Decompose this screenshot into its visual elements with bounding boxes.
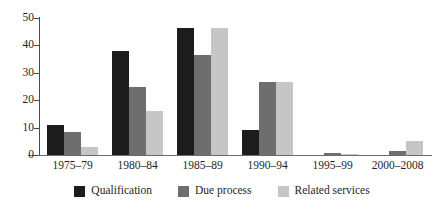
bar-related-services [211, 28, 228, 155]
y-tick-label: 10 [23, 122, 35, 134]
bar-group [177, 18, 228, 155]
bar-due-process [194, 55, 211, 155]
y-axis-ticks: 01020304050 [0, 0, 40, 208]
legend-item: Related services [278, 185, 370, 197]
bar-due-process [64, 132, 81, 155]
plot-area [40, 18, 430, 155]
y-tick-label: 20 [23, 94, 35, 106]
legend-label: Related services [295, 185, 370, 197]
x-tick-label: 2000–2008 [365, 160, 430, 172]
x-tick-label: 1995–99 [300, 160, 365, 172]
bar-related-services [81, 147, 98, 155]
legend-label: Qualification [91, 185, 152, 197]
bar-qualification [47, 125, 64, 155]
y-tick-mark [34, 100, 39, 101]
chart-legend: QualificationDue processRelated services [0, 182, 444, 200]
x-tick-label: 1985–89 [170, 160, 235, 172]
bar-group [242, 18, 293, 155]
bar-group [307, 18, 358, 155]
y-tick-mark [34, 45, 39, 46]
y-tick-mark [34, 155, 39, 156]
bar-related-services [146, 111, 163, 155]
bar-due-process [324, 153, 341, 155]
y-tick-mark [34, 128, 39, 129]
y-tick-mark [34, 73, 39, 74]
legend-swatch-icon [178, 186, 189, 197]
legend-item: Qualification [74, 185, 152, 197]
y-tick-mark [34, 18, 39, 19]
bar-due-process [389, 151, 406, 155]
bar-due-process [259, 82, 276, 155]
bar-qualification [112, 51, 129, 155]
bar-group [47, 18, 98, 155]
x-axis-line [28, 155, 432, 156]
legend-label: Due process [195, 185, 252, 197]
bar-group [112, 18, 163, 155]
bar-group [372, 18, 423, 155]
x-tick-label: 1975–79 [40, 160, 105, 172]
legend-item: Due process [178, 185, 252, 197]
bar-due-process [129, 87, 146, 156]
legend-swatch-icon [74, 186, 85, 197]
x-tick-label: 1980–84 [105, 160, 170, 172]
y-tick-label: 50 [23, 12, 35, 24]
y-tick-label: 40 [23, 40, 35, 52]
y-tick-label: 30 [23, 67, 35, 79]
x-tick-label: 1990–94 [235, 160, 300, 172]
legend-swatch-icon [278, 186, 289, 197]
bar-related-services [276, 82, 293, 155]
bar-qualification [177, 28, 194, 155]
bar-qualification [242, 130, 259, 155]
bar-related-services [406, 141, 423, 155]
bar-related-services [341, 154, 358, 155]
bar-chart-figure: 01020304050 QualificationDue processRela… [0, 0, 444, 208]
